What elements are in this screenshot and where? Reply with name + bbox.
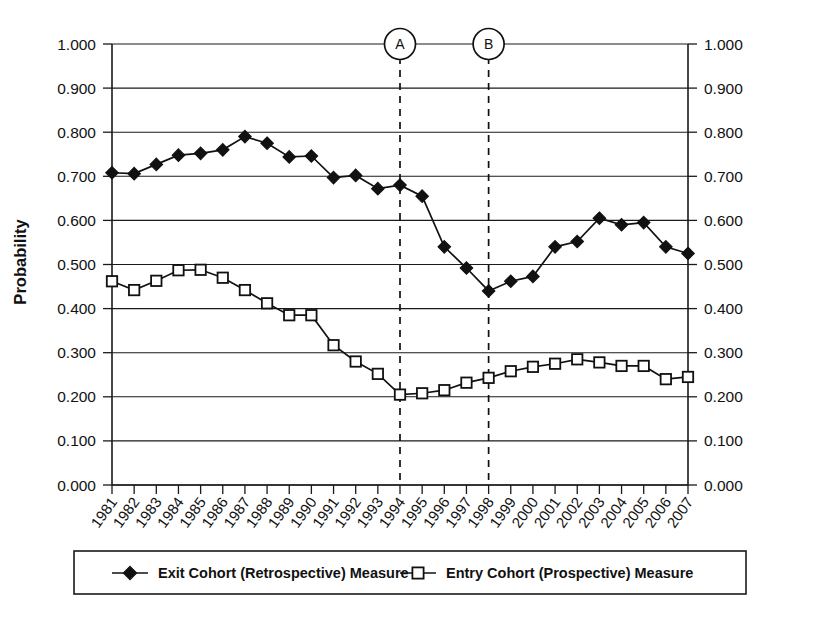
right-axis-tick-label: 0.700 bbox=[704, 168, 743, 185]
data-point-marker-square bbox=[439, 385, 449, 395]
data-point-marker-square bbox=[506, 366, 516, 376]
data-point-marker-diamond bbox=[128, 167, 140, 179]
data-point-marker-square bbox=[373, 369, 383, 379]
data-point-marker-square bbox=[594, 357, 604, 367]
left-axis-tick-label: 0.800 bbox=[57, 124, 96, 141]
left-axis-tick-label: 0.400 bbox=[57, 300, 96, 317]
data-point-marker-diamond bbox=[194, 147, 206, 159]
data-point-marker-square bbox=[417, 388, 427, 398]
data-point-marker-square bbox=[395, 389, 405, 399]
data-point-marker-square bbox=[218, 273, 228, 283]
legend-group: Exit Cohort (Retrospective) MeasureEntry… bbox=[112, 565, 693, 581]
data-point-marker-diamond bbox=[682, 247, 694, 259]
data-point-marker-square bbox=[306, 310, 316, 320]
data-point-marker-square bbox=[350, 356, 360, 366]
left-axis-tick-label: 1.000 bbox=[57, 36, 96, 53]
annotation-label-b: B bbox=[484, 36, 493, 52]
data-point-marker-diamond bbox=[172, 149, 184, 161]
left-axis-tick-label: 0.500 bbox=[57, 256, 96, 273]
right-axis-tick-label: 0.200 bbox=[704, 388, 743, 405]
right-axis-tick-label: 0.600 bbox=[704, 212, 743, 229]
right-axis-tick-label: 0.500 bbox=[704, 256, 743, 273]
right-axis-tick-label: 0.300 bbox=[704, 344, 743, 361]
data-point-marker-square bbox=[572, 354, 582, 364]
data-point-marker-square bbox=[129, 285, 139, 295]
right-axis-tick-label: 0.100 bbox=[704, 432, 743, 449]
data-point-marker-diamond bbox=[505, 275, 517, 287]
data-point-marker-square bbox=[173, 265, 183, 275]
x-axis-ticks-group bbox=[112, 485, 688, 494]
data-point-marker-square bbox=[483, 373, 493, 383]
data-point-marker-diamond bbox=[349, 169, 361, 181]
left-axis-ticks-group bbox=[103, 44, 112, 485]
data-point-marker-square bbox=[550, 359, 560, 369]
left-axis-tick-label: 0.900 bbox=[57, 80, 96, 97]
data-point-marker-square bbox=[284, 310, 294, 320]
left-axis-tick-label: 0.600 bbox=[57, 212, 96, 229]
annotation-label-a: A bbox=[395, 36, 405, 52]
legend-label: Exit Cohort (Retrospective) Measure bbox=[158, 565, 409, 581]
y-axis-title: Probability bbox=[11, 219, 29, 305]
right-axis-ticks-group bbox=[688, 44, 697, 485]
data-point-marker-diamond bbox=[527, 270, 539, 282]
data-point-marker-diamond bbox=[283, 151, 295, 163]
line-chart: 1.0000.9000.8000.7000.6000.5000.4000.300… bbox=[0, 0, 820, 625]
data-point-marker-square bbox=[328, 340, 338, 350]
data-point-marker-square bbox=[638, 361, 648, 371]
left-axis-tick-label: 0.700 bbox=[57, 168, 96, 185]
left-axis-tick-labels-group: 1.0000.9000.8000.7000.6000.5000.4000.300… bbox=[57, 36, 96, 494]
data-point-marker-square bbox=[107, 276, 117, 286]
data-point-marker-diamond bbox=[150, 158, 162, 170]
legend-item: Exit Cohort (Retrospective) Measure bbox=[112, 565, 409, 581]
data-point-marker-square bbox=[661, 374, 671, 384]
legend-label: Entry Cohort (Prospective) Measure bbox=[446, 565, 693, 581]
left-axis-tick-label: 0.100 bbox=[57, 432, 96, 449]
data-point-marker-diamond bbox=[549, 241, 561, 253]
right-axis-tick-label: 1.000 bbox=[704, 36, 743, 53]
data-point-marker-square bbox=[195, 265, 205, 275]
data-point-marker-diamond bbox=[394, 179, 406, 191]
left-axis-tick-label: 0.000 bbox=[57, 477, 96, 494]
right-axis-tick-label: 0.900 bbox=[704, 80, 743, 97]
data-point-marker-diamond bbox=[106, 167, 118, 179]
right-axis-tick-label: 0.800 bbox=[704, 124, 743, 141]
legend-item: Entry Cohort (Prospective) Measure bbox=[400, 565, 693, 581]
right-axis-tick-labels-group: 1.0000.9000.8000.7000.6000.5000.4000.300… bbox=[704, 36, 743, 494]
x-axis-tick-labels-group: 1981198219831984198519861987198819891990… bbox=[87, 494, 696, 531]
data-point-marker-square bbox=[461, 377, 471, 387]
data-point-marker-square bbox=[683, 372, 693, 382]
data-point-marker-square bbox=[412, 567, 423, 578]
data-point-marker-diamond bbox=[416, 190, 428, 202]
chart-figure: 1.0000.9000.8000.7000.6000.5000.4000.300… bbox=[0, 0, 820, 625]
left-axis-tick-label: 0.300 bbox=[57, 344, 96, 361]
data-point-marker-diamond bbox=[261, 137, 273, 149]
data-point-marker-square bbox=[240, 285, 250, 295]
data-point-marker-diamond bbox=[123, 566, 136, 579]
left-axis-tick-label: 0.200 bbox=[57, 388, 96, 405]
data-point-marker-diamond bbox=[217, 144, 229, 156]
right-axis-tick-label: 0.000 bbox=[704, 477, 743, 494]
data-point-marker-diamond bbox=[372, 182, 384, 194]
data-point-marker-square bbox=[616, 361, 626, 371]
data-point-marker-square bbox=[151, 276, 161, 286]
right-axis-tick-label: 0.400 bbox=[704, 300, 743, 317]
data-point-marker-square bbox=[528, 362, 538, 372]
data-point-marker-square bbox=[262, 298, 272, 308]
